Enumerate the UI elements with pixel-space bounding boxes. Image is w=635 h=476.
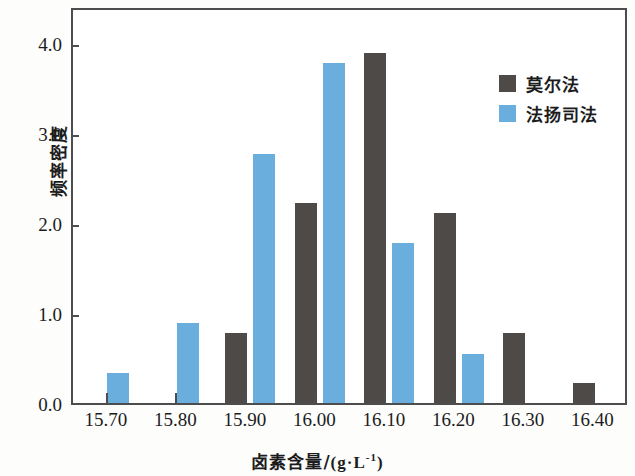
x-tick-mark [175, 393, 177, 405]
x-tick-mark [523, 393, 525, 405]
y-tick-label: 0.0 [10, 395, 62, 414]
legend-swatch-mohr [499, 75, 516, 92]
bar [177, 323, 199, 403]
x-tick-label: 16.20 [413, 410, 493, 429]
legend-item-fajans: 法扬司法 [499, 98, 598, 128]
y-axis-title: 频率密度 [45, 96, 70, 226]
x-tick-mark [314, 393, 316, 405]
legend: 莫尔法 法扬司法 [499, 68, 598, 128]
x-tick-mark [245, 393, 247, 405]
chart-figure: 0.01.02.03.04.0 15.7015.8015.9016.0016.1… [0, 0, 635, 476]
x-axis-title-text: 卤素含量/ [251, 452, 330, 472]
x-axis-unit-open: (g·L [331, 453, 366, 472]
legend-label-mohr: 莫尔法 [526, 71, 580, 96]
x-axis-unit-exponent: -1 [366, 451, 377, 463]
bar [392, 243, 414, 403]
x-tick-label: 16.00 [274, 410, 354, 429]
legend-label-fajans: 法扬司法 [526, 101, 598, 126]
x-tick-mark [592, 393, 594, 405]
y-tick-label: 4.0 [10, 35, 62, 54]
x-tick-label: 15.90 [205, 410, 285, 429]
x-tick-mark [453, 393, 455, 405]
bar [364, 53, 386, 403]
y-tick-mark [71, 315, 79, 317]
x-tick-label: 15.70 [66, 410, 146, 429]
y-tick-mark [71, 135, 79, 137]
x-tick-label: 16.30 [483, 410, 563, 429]
y-tick-mark [71, 45, 79, 47]
bar [253, 154, 275, 403]
x-tick-mark [384, 393, 386, 405]
legend-item-mohr: 莫尔法 [499, 68, 598, 98]
legend-swatch-fajans [499, 105, 516, 122]
y-tick-label: 1.0 [10, 305, 62, 324]
bar [323, 63, 345, 403]
bar [462, 354, 484, 404]
bar [434, 213, 456, 403]
x-tick-label: 16.40 [552, 410, 632, 429]
bar [295, 203, 317, 403]
x-tick-label: 16.10 [344, 410, 424, 429]
x-axis-unit-close: ) [377, 453, 384, 472]
x-axis-title: 卤素含量/(g·L-1) [0, 448, 635, 473]
y-tick-mark [71, 225, 79, 227]
x-tick-label: 15.80 [135, 410, 215, 429]
x-tick-mark [106, 393, 108, 405]
bar [107, 373, 129, 403]
